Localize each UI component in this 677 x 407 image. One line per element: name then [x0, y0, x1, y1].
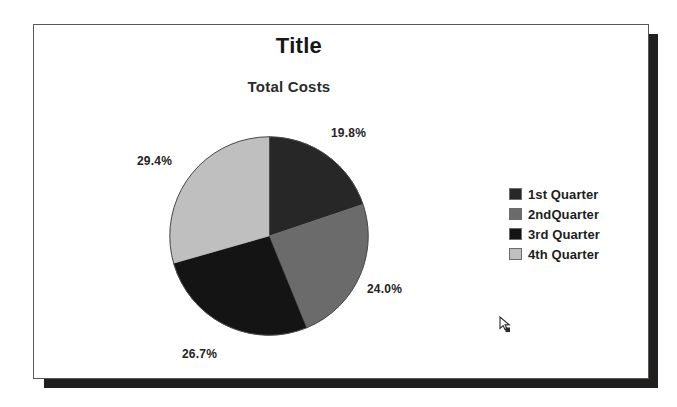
pie-data-label-q2: 24.0% [367, 282, 402, 296]
legend-swatch-icon-2nd-quarter [509, 208, 522, 220]
mouse-cursor-icon [499, 316, 512, 333]
legend-label-3rd-quarter: 3rd Quarter [528, 227, 600, 242]
legend-swatch-icon-4th-quarter [509, 248, 522, 260]
chart-title: Title [34, 33, 564, 59]
screenshot-root: Title Total Costs 19.8% 24.0% 26.7% 29.4… [0, 0, 677, 407]
legend-swatch-icon-3rd-quarter [509, 228, 522, 240]
legend-label-4th-quarter: 4th Quarter [528, 247, 599, 262]
chart-legend: 1st Quarter 2ndQuarter 3rd Quarter 4th Q… [509, 184, 600, 264]
window-shadow-bottom [44, 379, 657, 388]
pie-data-label-q4: 29.4% [137, 154, 172, 168]
window-shadow-right [649, 34, 658, 388]
legend-item-4th-quarter[interactable]: 4th Quarter [509, 244, 600, 264]
legend-item-3rd-quarter[interactable]: 3rd Quarter [509, 224, 600, 244]
legend-item-2nd-quarter[interactable]: 2ndQuarter [509, 204, 600, 224]
legend-label-2nd-quarter: 2ndQuarter [528, 207, 599, 222]
pie-chart-svg[interactable] [169, 136, 369, 336]
pie-data-label-q3: 26.7% [182, 347, 217, 361]
pie-chart[interactable] [169, 136, 369, 336]
cursor-arrow-glyph [499, 316, 512, 333]
pie-data-label-q1: 19.8% [331, 126, 366, 140]
legend-swatch-icon-1st-quarter [509, 188, 522, 200]
chart-subtitle: Total Costs [34, 78, 544, 95]
chart-window-frame: Title Total Costs 19.8% 24.0% 26.7% 29.4… [33, 24, 649, 379]
legend-item-1st-quarter[interactable]: 1st Quarter [509, 184, 600, 204]
legend-label-1st-quarter: 1st Quarter [528, 187, 598, 202]
